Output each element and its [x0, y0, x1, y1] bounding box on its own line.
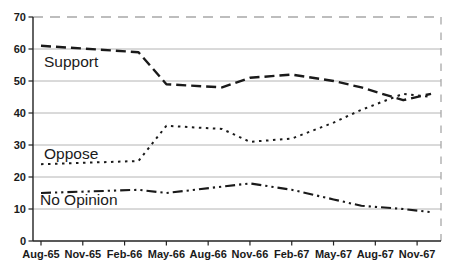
x-tick-label-Feb-67: Feb-67 [274, 248, 309, 260]
y-tick-label-20: 20 [14, 171, 26, 183]
series-label-support: Support [44, 53, 99, 70]
y-tick-label-40: 40 [14, 107, 26, 119]
series-line-support [41, 46, 431, 100]
x-tick-label-Aug-65: Aug-65 [22, 248, 59, 260]
x-tick-label-Aug-66: Aug-66 [190, 248, 227, 260]
poll-line-chart-canvas: 010203040506070Aug-65Nov-65Feb-66May-66A… [0, 0, 457, 271]
x-tick-label-May-66: May-66 [148, 248, 185, 260]
poll-line-chart: 010203040506070Aug-65Nov-65Feb-66May-66A… [0, 0, 457, 271]
x-tick-label-May-67: May-67 [315, 248, 352, 260]
y-tick-label-50: 50 [14, 75, 26, 87]
y-tick-label-10: 10 [14, 203, 26, 215]
x-tick-label-Nov-66: Nov-66 [232, 248, 269, 260]
x-tick-label-Aug-67: Aug-67 [357, 248, 394, 260]
series-label-oppose: Oppose [44, 145, 98, 162]
y-tick-label-30: 30 [14, 139, 26, 151]
series-line-oppose [41, 94, 431, 164]
y-tick-label-0: 0 [20, 235, 26, 247]
x-tick-label-Nov-67: Nov-67 [399, 248, 436, 260]
x-tick-label-Nov-65: Nov-65 [64, 248, 101, 260]
x-tick-label-Feb-66: Feb-66 [107, 248, 142, 260]
series-label-no-opinion: No Opinion [40, 191, 118, 208]
y-tick-label-70: 70 [14, 11, 26, 23]
y-tick-label-60: 60 [14, 43, 26, 55]
